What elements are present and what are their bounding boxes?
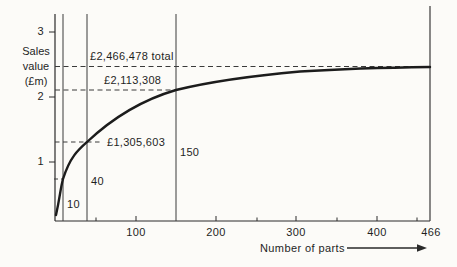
x-tick-466: 466 [421, 226, 440, 238]
pareto-sales-chart: Sales value (£m) 3 2 1 £2,466,478 total … [0, 0, 457, 267]
x-axis-title: Number of parts [260, 242, 345, 254]
x-axis-arrow-icon [347, 244, 427, 251]
annotation-total-value: £2,466,478 total [90, 50, 174, 62]
y-tick-1: 1 [30, 155, 44, 167]
x-tick-100: 100 [126, 226, 145, 238]
x-tick-300: 300 [286, 226, 305, 238]
annotation-value-at-40: £1,305,603 [107, 136, 165, 148]
x-tick-200: 200 [206, 226, 225, 238]
x-tick-400: 400 [367, 226, 386, 238]
mark-10-parts: 10 [67, 198, 80, 210]
y-tick-3: 3 [30, 25, 44, 37]
y-axis-title-line3: (£m) [12, 74, 60, 89]
mark-150-parts: 150 [180, 146, 199, 158]
y-axis-title: Sales value (£m) [12, 44, 60, 89]
y-axis-title-line1: Sales [12, 44, 60, 59]
plot-canvas [0, 0, 457, 267]
y-axis-title-line2: value [12, 59, 60, 74]
annotation-value-at-150: £2,113,308 [104, 74, 161, 86]
mark-40-parts: 40 [91, 175, 104, 187]
y-tick-2: 2 [30, 90, 44, 102]
